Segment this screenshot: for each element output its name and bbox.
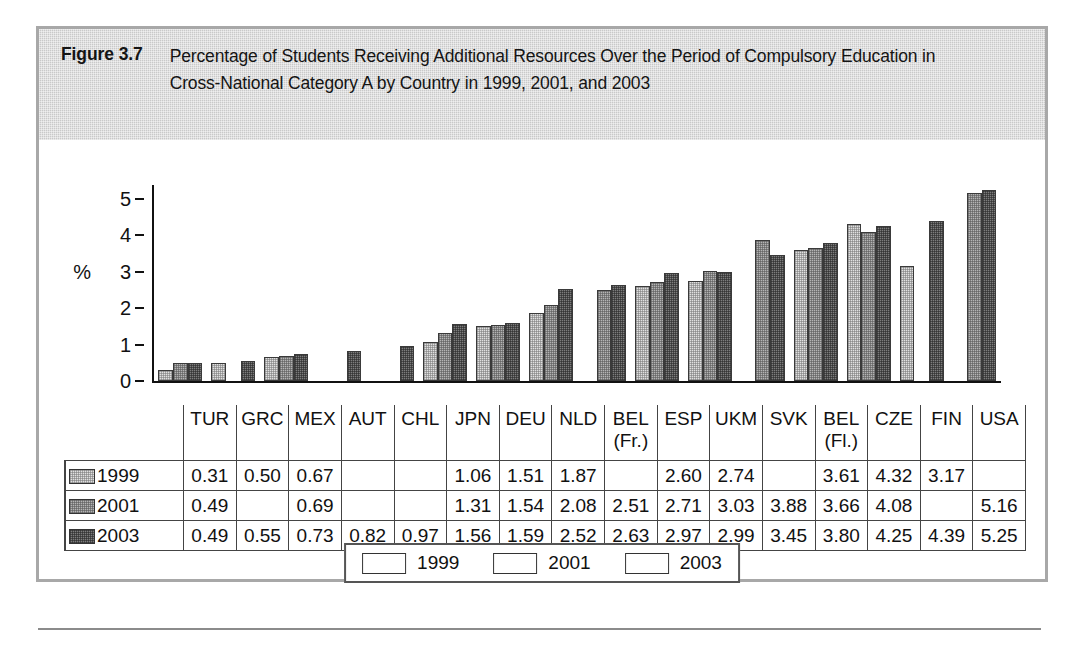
y-axis-tick-mark (135, 344, 144, 346)
bar-slot (664, 177, 679, 381)
y-axis-tick-label: 3 (91, 260, 131, 283)
figure-frame: Figure 3.7 Percentage of Students Receiv… (36, 26, 1048, 582)
bar-USA-2001 (967, 193, 982, 381)
column-header-BELFl: BEL(Fl.) (815, 405, 868, 461)
y-axis-tick-mark (135, 198, 144, 200)
column-header-line: TUR (184, 408, 236, 430)
table-cell: 0.49 (184, 521, 237, 551)
table-cell: 0.31 (184, 461, 237, 491)
table-cell: 3.61 (815, 461, 868, 491)
bar-AUT-2003 (347, 351, 362, 381)
bar-group (211, 177, 255, 381)
bar-slot (226, 177, 241, 381)
legend-entry-2001: 2001 (493, 552, 590, 574)
bar-JPN-1999 (423, 342, 438, 381)
column-header-ESP: ESP (657, 405, 710, 461)
row-header-1999: 1999 (65, 461, 184, 491)
chart-legend: 199920012003 (344, 543, 740, 583)
column-header-line: SVK (763, 408, 815, 430)
column-header-JPN: JPN (447, 405, 500, 461)
bar-slot (794, 177, 809, 381)
bar-slot (332, 177, 347, 381)
bar-slot (400, 177, 415, 381)
bar-slot (158, 177, 173, 381)
y-axis-tick-label: 1 (91, 333, 131, 356)
column-header-line: USA (973, 408, 1025, 430)
column-header-line: MEX (289, 408, 341, 430)
column-header-line: DEU (500, 408, 552, 430)
bar-slot (755, 177, 770, 381)
y-axis-tick-mark (135, 271, 144, 273)
bar-GRC-2003 (241, 361, 256, 381)
bar-slot (476, 177, 491, 381)
column-header-line: AUT (342, 408, 394, 430)
legend-swatch-icon (69, 529, 95, 544)
figure-title: Percentage of Students Receiving Additio… (170, 43, 970, 96)
bar-slot (544, 177, 559, 381)
bar-group (688, 177, 732, 381)
bar-slot (808, 177, 823, 381)
y-axis-title: % (73, 260, 91, 283)
bar-UKM-2001 (703, 271, 718, 381)
bar-BELFr-2001 (597, 290, 612, 381)
bar-slot (688, 177, 703, 381)
bar-DEU-1999 (476, 326, 491, 381)
bar-slot (876, 177, 891, 381)
bar-group (370, 177, 414, 381)
table-cell (920, 491, 973, 521)
bar-GRC-1999 (211, 363, 226, 381)
bar-slot (370, 177, 385, 381)
column-header-DEU: DEU (499, 405, 552, 461)
table-cell (394, 491, 447, 521)
column-header-BELFr: BEL(Fr.) (605, 405, 658, 461)
bar-FIN-2003 (929, 221, 944, 381)
table-cell: 3.03 (710, 491, 763, 521)
column-header-line: CHL (395, 408, 447, 430)
bar-slot (770, 177, 785, 381)
bar-slot (900, 177, 915, 381)
bar-MEX-2001 (279, 356, 294, 381)
column-header-line: BEL (605, 408, 657, 430)
table-row: 20010.490.691.311.542.082.512.713.033.88… (65, 491, 1026, 521)
bar-JPN-2003 (452, 324, 467, 381)
table-cell: 1.31 (447, 491, 500, 521)
bar-group (423, 177, 467, 381)
y-axis: 012345% (39, 140, 153, 420)
table-header-row: TURGRCMEXAUTCHLJPNDEUNLDBEL(Fr.)ESPUKMSV… (65, 405, 1026, 461)
table-cell: 0.49 (184, 491, 237, 521)
legend-swatch-icon (493, 553, 537, 574)
legend-swatch-icon (69, 499, 95, 514)
bar-slot (241, 177, 256, 381)
bar-slot (529, 177, 544, 381)
bar-JPN-2001 (438, 333, 453, 381)
column-header-USA: USA (973, 405, 1026, 461)
bar-slot (914, 177, 929, 381)
bar-slot (279, 177, 294, 381)
column-header-line: ESP (658, 408, 710, 430)
column-header-line: (Fr.) (605, 430, 657, 452)
bar-TUR-2003 (188, 363, 203, 381)
table-cell: 0.50 (236, 461, 289, 491)
table-cell: 2.60 (657, 461, 710, 491)
bar-USA-2003 (982, 190, 997, 381)
bar-BELFl-1999 (794, 250, 809, 382)
table-cell: 1.51 (499, 461, 552, 491)
table-cell: 0.73 (289, 521, 342, 551)
table-cell (236, 491, 289, 521)
page-bottom-rule (38, 628, 1041, 630)
bar-CZE-2003 (876, 226, 891, 381)
legend-label: 2001 (548, 552, 590, 574)
bar-group (741, 177, 785, 381)
column-header-AUT: AUT (341, 405, 394, 461)
y-axis-tick-label: 0 (91, 370, 131, 393)
table-cell: 2.74 (710, 461, 763, 491)
bar-slot (264, 177, 279, 381)
bar-CZE-2001 (861, 232, 876, 381)
bar-slot (452, 177, 467, 381)
bar-NLD-2001 (544, 305, 559, 381)
bar-group (794, 177, 838, 381)
bar-SVK-2001 (755, 240, 770, 381)
table-cell: 3.45 (762, 521, 815, 551)
table-cell: 1.87 (552, 461, 605, 491)
column-header-SVK: SVK (762, 405, 815, 461)
